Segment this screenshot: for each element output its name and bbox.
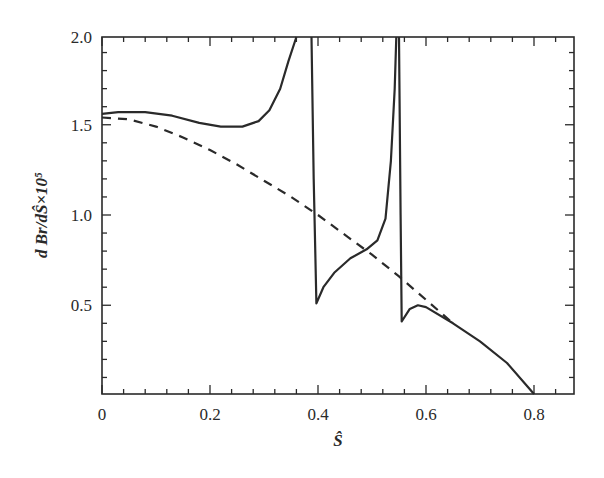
y-tick-label: 0.5 <box>71 296 92 315</box>
y-tick-label: 1.0 <box>71 206 92 225</box>
y-tick-label: 2.0 <box>71 28 92 47</box>
x-tick-label: 0.8 <box>523 405 544 424</box>
x-axis-title: Ŝ <box>333 431 342 450</box>
x-tick-label: 0.6 <box>415 405 436 424</box>
tick-labels: 00.20.40.60.80.51.01.52.0 <box>71 28 545 424</box>
axis-ticks <box>102 37 574 394</box>
series-layer <box>102 37 534 394</box>
chart: 00.20.40.60.80.51.01.52.0 Ŝ d Br/dŜ×10⁵ <box>0 0 604 478</box>
solid-curve <box>102 37 296 127</box>
plot-frame <box>102 37 574 394</box>
x-tick-label: 0.2 <box>199 405 220 424</box>
x-tick-label: 0.4 <box>307 405 329 424</box>
x-tick-label: 0 <box>98 405 107 424</box>
y-axis-title: d Br/dŜ×10⁵ <box>32 172 51 258</box>
solid-curve <box>399 37 534 394</box>
y-tick-label: 1.5 <box>71 116 92 135</box>
